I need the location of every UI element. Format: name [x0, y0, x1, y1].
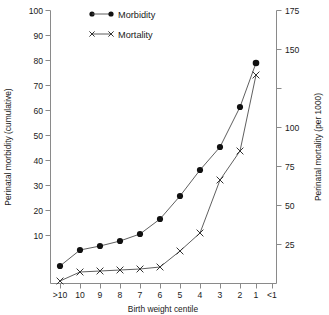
legend-entry-mortality: Mortality: [89, 30, 153, 40]
bottom-ticklabel-6: 6: [158, 290, 163, 300]
legend-entry-morbidity: Morbidity: [89, 10, 155, 20]
morbidity-point: [197, 167, 203, 173]
bottom-ticklabel-4: 4: [198, 290, 203, 300]
filled-circle-icon: [108, 11, 113, 16]
mortality-point: [177, 248, 184, 255]
morbidity-point: [117, 238, 123, 244]
right-ticklabel-25: 25: [285, 240, 295, 250]
mortality-line: [60, 75, 256, 281]
left-ticklabel-50: 50: [33, 131, 43, 141]
mortality-point: [237, 148, 244, 155]
bottom-axis: >10 10 9 8 7 6 5 4 3 2 1 <1 Birth weight…: [51, 284, 278, 315]
chart-canvas: 100 90 80 70 60 50 40 30 20 10 Perinatal…: [0, 0, 329, 315]
bottom-ticklabel-2: 2: [238, 290, 243, 300]
left-ticklabel-90: 90: [33, 31, 43, 41]
morbidity-point: [57, 263, 63, 269]
bottom-ticklabel-9: 9: [98, 290, 103, 300]
morbidity-point: [217, 144, 223, 150]
left-ticklabel-20: 20: [33, 206, 43, 216]
bottom-ticklabel-3: 3: [218, 290, 223, 300]
left-ticklabel-40: 40: [33, 156, 43, 166]
left-ticklabel-60: 60: [33, 106, 43, 116]
morbidity-line: [60, 63, 256, 266]
chart-figure: 100 90 80 70 60 50 40 30 20 10 Perinatal…: [0, 0, 329, 315]
morbidity-point: [177, 193, 183, 199]
left-ticklabel-100: 100: [29, 6, 44, 16]
bottom-ticklabel-5: 5: [178, 290, 183, 300]
morbidity-point: [137, 231, 143, 237]
bottom-ticklabel-gt10: >10: [53, 290, 68, 300]
left-axis-title: Perinatal morbidity (cumulative): [3, 88, 13, 206]
bottom-ticklabel-8: 8: [118, 290, 123, 300]
right-ticklabel-75: 75: [285, 162, 295, 172]
mortality-point: [217, 177, 224, 184]
bottom-axis-title: Birth weight centile: [128, 304, 199, 314]
left-ticklabel-30: 30: [33, 181, 43, 191]
left-ticklabel-80: 80: [33, 56, 43, 66]
series-mortality: [57, 72, 260, 285]
right-axis: 175 150 100 75 50 25 Perinatal mortality…: [277, 6, 324, 284]
left-ticklabel-70: 70: [33, 81, 43, 91]
morbidity-point: [157, 216, 163, 222]
mortality-point: [197, 230, 204, 237]
right-axis-title: Perinatal mortality (per 1000): [313, 93, 323, 201]
bottom-ticklabel-7: 7: [138, 290, 143, 300]
left-axis: 100 90 80 70 60 50 40 30 20 10 Perinatal…: [3, 6, 51, 284]
legend-label-morbidity: Morbidity: [118, 10, 156, 20]
series-morbidity: [57, 60, 259, 269]
bottom-ticklabel-lt1: <1: [267, 290, 277, 300]
right-ticklabel-100: 100: [285, 123, 300, 133]
mortality-point: [253, 72, 260, 79]
right-ticklabel-150: 150: [285, 45, 300, 55]
morbidity-point: [253, 60, 260, 67]
left-ticklabel-10: 10: [33, 231, 43, 241]
morbidity-point: [77, 247, 83, 253]
morbidity-point: [237, 104, 243, 110]
morbidity-point: [97, 243, 103, 249]
right-ticklabel-175: 175: [285, 6, 300, 16]
chart-legend: Morbidity Mortality: [89, 10, 155, 40]
legend-label-mortality: Mortality: [118, 30, 153, 40]
bottom-ticklabel-10: 10: [75, 290, 85, 300]
bottom-ticklabel-1: 1: [254, 290, 259, 300]
right-ticklabel-50: 50: [285, 201, 295, 211]
